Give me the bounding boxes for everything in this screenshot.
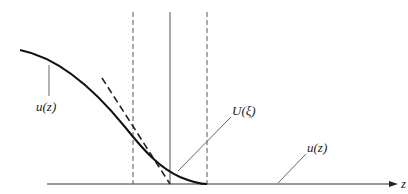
label-U-xi: U(ξ) <box>232 104 256 117</box>
axis-arrow-icon <box>389 181 398 187</box>
diagram-canvas <box>0 0 408 194</box>
axis-label-z: z <box>401 177 406 190</box>
leader-right-u <box>278 154 306 183</box>
leader-U-xi <box>178 117 231 171</box>
tangent-line <box>102 78 170 184</box>
curve-u <box>20 50 207 184</box>
label-u-left: u(z) <box>36 100 56 113</box>
label-u-right: u(z) <box>307 141 327 154</box>
